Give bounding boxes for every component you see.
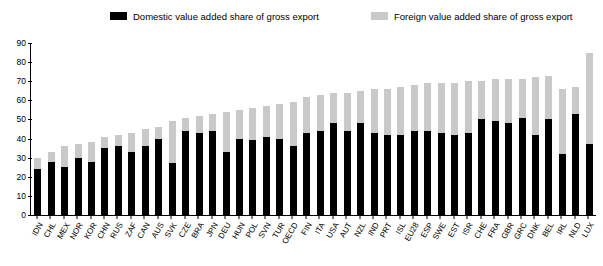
bar-group — [381, 43, 394, 215]
bar-segment-foreign — [155, 127, 162, 138]
bar-stack — [223, 112, 230, 215]
bar-segment-domestic — [236, 139, 243, 215]
bar-group — [166, 43, 179, 215]
x-axis-tick-label: DEU — [217, 221, 233, 240]
x-axis-tick-mark — [36, 216, 37, 219]
bar-segment-foreign — [182, 118, 189, 131]
x-axis-tick: SVK — [165, 216, 178, 266]
x-axis-tick: EST — [447, 216, 460, 266]
x-axis-tick-label: SWE — [431, 221, 448, 241]
x-axis-tick: BEL — [541, 216, 554, 266]
bar-stack — [492, 79, 499, 215]
bar-group — [260, 43, 273, 215]
y-axis-tick-label: 20 — [17, 172, 26, 181]
x-axis-tick-label: SVK — [163, 221, 179, 239]
x-axis-tick: GRC — [514, 216, 527, 266]
bar-stack — [438, 83, 445, 215]
bar-group — [327, 43, 340, 215]
bar-segment-foreign — [128, 133, 135, 152]
bar-group — [246, 43, 259, 215]
x-axis-tick: MEX — [57, 216, 70, 266]
x-axis-tick-label: CZE — [177, 221, 193, 239]
bar-segment-domestic — [276, 139, 283, 215]
bar-series-container — [31, 43, 596, 215]
bar-segment-foreign — [411, 85, 418, 131]
bar-stack — [48, 152, 55, 215]
bar-group — [179, 43, 192, 215]
bar-group — [287, 43, 300, 215]
bar-stack — [249, 108, 256, 215]
bar-segment-domestic — [209, 131, 216, 215]
bar-segment-domestic — [88, 162, 95, 216]
bar-segment-domestic — [196, 133, 203, 215]
bar-segment-foreign — [75, 144, 82, 157]
bar-group — [314, 43, 327, 215]
bar-group — [367, 43, 380, 215]
bar-segment-domestic — [478, 119, 485, 215]
bar-segment-foreign — [169, 121, 176, 163]
bar-segment-domestic — [223, 152, 230, 215]
bar-segment-foreign — [478, 81, 485, 119]
x-axis-tick: ZAF — [124, 216, 137, 266]
bar-stack — [357, 91, 364, 215]
bar-segment-foreign — [451, 83, 458, 135]
bar-segment-foreign — [465, 81, 472, 133]
bar-segment-domestic — [182, 131, 189, 215]
y-axis-tick-label: 30 — [17, 153, 26, 162]
bar-segment-domestic — [397, 135, 404, 215]
legend-label-domestic: Domestic value added share of gross expo… — [133, 11, 319, 22]
bar-group — [529, 43, 542, 215]
x-axis-tick: ISR — [460, 216, 473, 266]
bar-segment-foreign — [344, 93, 351, 131]
x-axis-tick-mark — [238, 216, 239, 219]
bar-segment-foreign — [371, 89, 378, 133]
bar-stack — [75, 144, 82, 215]
bar-group — [421, 43, 434, 215]
bar-segment-foreign — [492, 79, 499, 121]
bar-group — [58, 43, 71, 215]
x-axis-tick-mark — [440, 216, 441, 219]
x-axis-tick-mark — [467, 216, 468, 219]
bar-segment-domestic — [263, 137, 270, 215]
x-axis-tick-label: POL — [244, 221, 260, 239]
legend-item-domestic: Domestic value added share of gross expo… — [110, 9, 319, 23]
x-axis-tick: EU28 — [407, 216, 420, 266]
bar-group — [98, 43, 111, 215]
bar-segment-domestic — [411, 131, 418, 215]
legend-swatch-foreign — [371, 12, 388, 20]
bar-stack — [196, 116, 203, 215]
x-axis-tick-mark — [588, 216, 589, 219]
bar-group — [139, 43, 152, 215]
bar-group — [233, 43, 246, 215]
bar-segment-domestic — [371, 133, 378, 215]
x-axis-tick-label: SVN — [257, 221, 273, 240]
y-axis-tick-label: 80 — [17, 58, 26, 67]
bar-stack — [411, 85, 418, 215]
x-axis-tick-label: AUS — [150, 221, 166, 240]
bar-segment-domestic — [249, 140, 256, 215]
bar-stack — [263, 106, 270, 215]
x-axis-tick-mark — [386, 216, 387, 219]
bar-segment-domestic — [559, 154, 566, 215]
bar-group — [44, 43, 57, 215]
bar-group — [300, 43, 313, 215]
x-axis-tick: FRA — [487, 216, 500, 266]
x-axis: IDNCHLMEXNORKORCHNRUSZAFCANAUSSVKCZEBRAJ… — [30, 216, 595, 266]
bar-segment-domestic — [586, 144, 593, 215]
x-axis-tick: NOR — [70, 216, 83, 266]
bar-stack — [397, 87, 404, 215]
bar-segment-domestic — [317, 131, 324, 215]
bar-segment-domestic — [451, 135, 458, 215]
y-axis-tick-label: 70 — [17, 77, 26, 86]
bar-stack — [142, 129, 149, 215]
x-axis-tick: IRL — [555, 216, 568, 266]
bar-stack — [559, 89, 566, 215]
bar-stack — [303, 97, 310, 215]
bar-segment-domestic — [101, 148, 108, 215]
bar-stack — [34, 158, 41, 215]
bar-segment-domestic — [155, 139, 162, 215]
y-axis-tick-label: 10 — [17, 191, 26, 200]
x-axis-tick-mark — [574, 216, 575, 219]
bar-stack — [451, 83, 458, 215]
bar-segment-foreign — [101, 137, 108, 148]
